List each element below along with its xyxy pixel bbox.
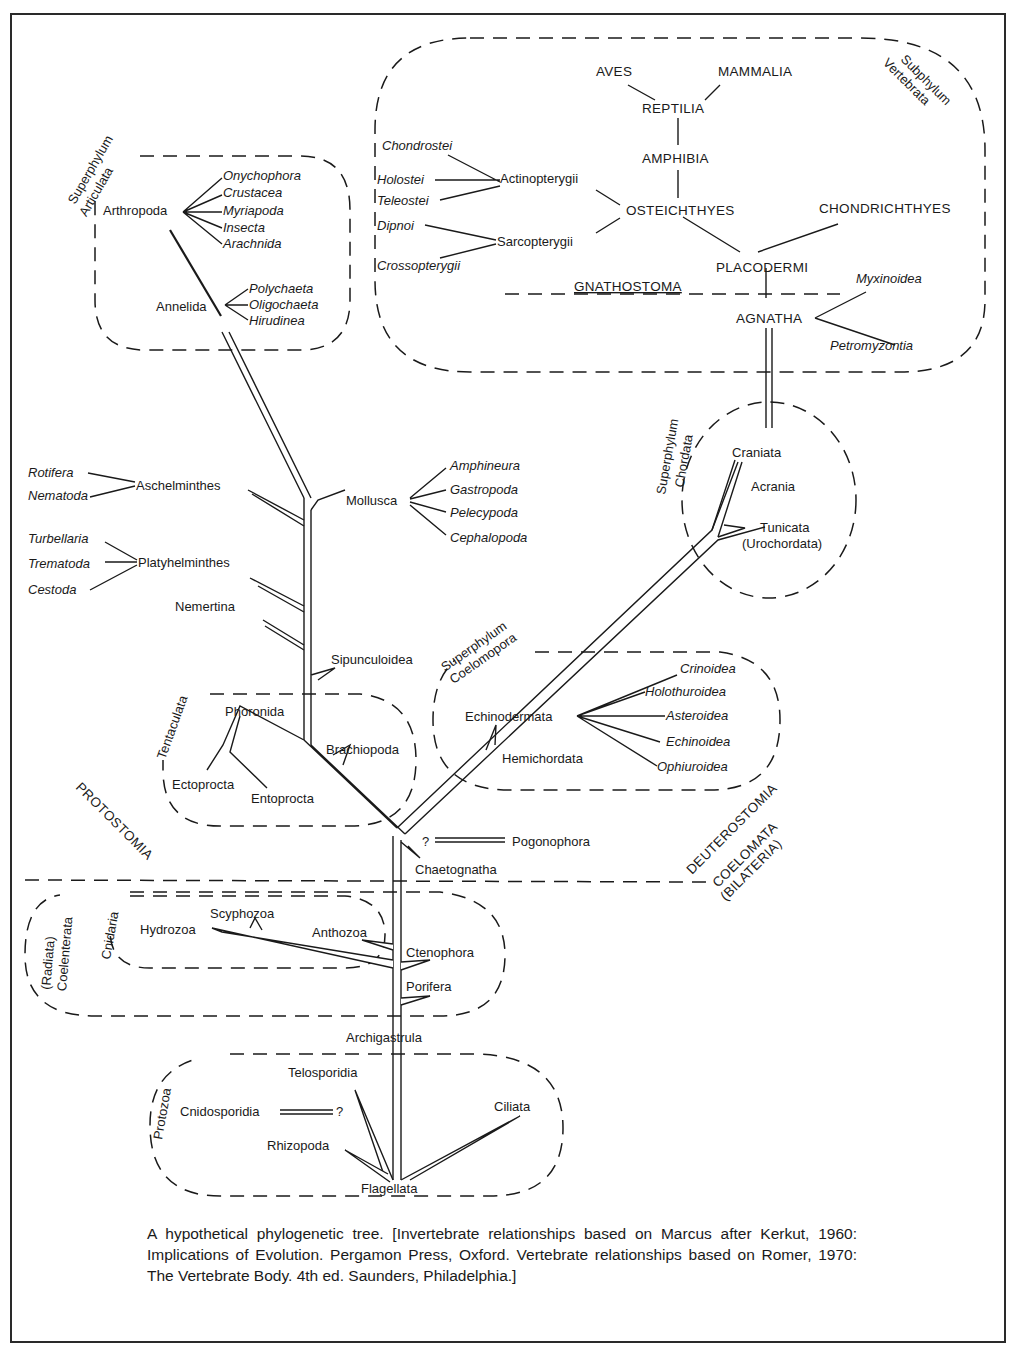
label-entoprocta: Entoprocta: [251, 791, 315, 806]
svg-text:Tentaculata: Tentaculata: [154, 693, 191, 761]
label-scyphozoa: Scyphozoa: [210, 906, 275, 921]
label-holostei: Holostei: [377, 172, 425, 187]
label-urochordata: (Urochordata): [742, 536, 822, 551]
label-gnathostoma: GNATHOSTOMA: [574, 279, 682, 294]
label-reptilia: REPTILIA: [642, 101, 704, 116]
label-ectoprocta: Ectoprocta: [172, 777, 235, 792]
label-flagellata: Flagellata: [361, 1181, 418, 1196]
label-hirudinea: Hirudinea: [249, 313, 305, 328]
label-acrania: Acrania: [751, 479, 796, 494]
label-sipunculoidea: Sipunculoidea: [331, 652, 413, 667]
svg-text:PROTOSTOMIA: PROTOSTOMIA: [73, 780, 156, 863]
label-pelecypoda: Pelecypoda: [450, 505, 518, 520]
label-cnidosporidia-question: ?: [336, 1104, 343, 1119]
label-porifera: Porifera: [406, 979, 452, 994]
tentaculata-group-outline: [163, 694, 416, 826]
label-agnatha: AGNATHA: [736, 311, 802, 326]
phylogenetic-tree-diagram: AVES MAMMALIA REPTILIA AMPHIBIA OSTEICHT…: [0, 0, 1016, 1347]
coelomata-divider: [25, 880, 710, 882]
svg-text:Cnidaria: Cnidaria: [98, 909, 121, 960]
svg-text:Protozoa: Protozoa: [150, 1086, 174, 1141]
label-echinodermata: Echinodermata: [465, 709, 553, 724]
label-actinopterygii: Actinopterygii: [500, 171, 578, 186]
label-craniata: Craniata: [732, 445, 782, 460]
label-holothuroidea: Holothuroidea: [645, 684, 726, 699]
label-platyhelminthes: Platyhelminthes: [138, 555, 230, 570]
label-amphibia: AMPHIBIA: [642, 151, 709, 166]
label-phoronida: Phoronida: [225, 704, 285, 719]
label-ctenophora: Ctenophora: [406, 945, 475, 960]
label-osteichthyes: OSTEICHTHYES: [626, 203, 735, 218]
label-aschelminthes: Aschelminthes: [136, 478, 221, 493]
label-chondrichthyes: CHONDRICHTHYES: [819, 201, 951, 216]
label-mollusca: Mollusca: [346, 493, 398, 508]
label-gastropoda: Gastropoda: [450, 482, 518, 497]
label-nematoda: Nematoda: [28, 488, 88, 503]
label-insecta: Insecta: [223, 220, 265, 235]
label-crossopterygii: Crossopterygii: [377, 258, 461, 273]
label-asteroidea: Asteroidea: [665, 708, 728, 723]
label-crinoidea: Crinoidea: [680, 661, 736, 676]
label-cestoda: Cestoda: [28, 582, 76, 597]
label-tunicata: Tunicata: [760, 520, 810, 535]
label-hemichordata: Hemichordata: [502, 751, 584, 766]
label-ciliata: Ciliata: [494, 1099, 531, 1114]
label-annelida: Annelida: [156, 299, 207, 314]
label-arthropoda: Arthropoda: [103, 203, 168, 218]
vertebrata-group-label: Subphylum Vertebrata: [880, 44, 954, 118]
label-cnidosporidia: Cnidosporidia: [180, 1104, 260, 1119]
label-telosporidia: Telosporidia: [288, 1065, 358, 1080]
label-onychophora: Onychophora: [223, 168, 301, 183]
label-turbellaria: Turbellaria: [28, 531, 88, 546]
label-rhizopoda: Rhizopoda: [267, 1138, 330, 1153]
protozoa-group-label: Protozoa: [150, 1086, 174, 1141]
cnidaria-group-label: Cnidaria: [98, 909, 121, 960]
label-mammalia: MAMMALIA: [718, 64, 792, 79]
label-placodermi: PLACODERMI: [716, 260, 808, 275]
label-oligochaeta: Oligochaeta: [249, 297, 318, 312]
label-anthozoa: Anthozoa: [312, 925, 368, 940]
label-amphineura: Amphineura: [449, 458, 520, 473]
label-trematoda: Trematoda: [28, 556, 90, 571]
label-nemertina: Nemertina: [175, 599, 236, 614]
label-pogonophora-question: ?: [422, 834, 429, 849]
label-myriapoda: Myriapoda: [223, 203, 284, 218]
figure-caption: A hypothetical phylogenetic tree. [Inver…: [147, 1223, 857, 1286]
label-rotifera: Rotifera: [28, 465, 74, 480]
label-pogonophora: Pogonophora: [512, 834, 591, 849]
label-chaetognatha: Chaetognatha: [415, 862, 497, 877]
label-arachnida: Arachnida: [222, 236, 282, 251]
label-crustacea: Crustacea: [223, 185, 282, 200]
label-hydrozoa: Hydrozoa: [140, 922, 196, 937]
label-teleostei: Teleostei: [377, 193, 430, 208]
label-dipnoi: Dipnoi: [377, 218, 415, 233]
protostomia-label: PROTOSTOMIA: [73, 780, 156, 863]
svg-text:Coelenterata: Coelenterata: [54, 915, 75, 991]
label-echinoidea: Echinoidea: [666, 734, 730, 749]
label-ophiuroidea: Ophiuroidea: [657, 759, 728, 774]
tentaculata-group-label: Tentaculata: [154, 693, 191, 761]
coelomopora-group-label: Superphylum Coelomopora: [438, 617, 520, 687]
label-archigastrula: Archigastrula: [346, 1030, 423, 1045]
label-aves: AVES: [596, 64, 632, 79]
coelenterata-group-label: (Radiata) Coelenterata: [38, 914, 75, 992]
label-brachiopoda: Brachiopoda: [326, 742, 400, 757]
label-polychaeta: Polychaeta: [249, 281, 313, 296]
label-chondrostei: Chondrostei: [382, 138, 453, 153]
label-petromyzontia: Petromyzontia: [830, 338, 913, 353]
label-sarcopterygii: Sarcopterygii: [497, 234, 573, 249]
chordata-group-outline: [682, 402, 856, 598]
label-myxinoidea: Myxinoidea: [856, 271, 922, 286]
label-cephalopoda: Cephalopoda: [450, 530, 527, 545]
chordata-group-label: Superphylum Chordata: [653, 417, 698, 498]
